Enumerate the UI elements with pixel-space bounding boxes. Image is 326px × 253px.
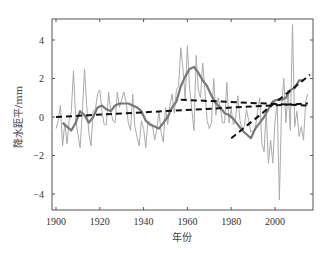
x-tick-label: 1940 [134,216,154,227]
x-tick-label: 1900 [46,216,66,227]
x-axis-title: 年份 [172,231,192,243]
x-tick-label: 2000 [265,216,285,227]
y-tick-label: −2 [33,150,44,161]
series-line-0 [56,25,308,200]
x-tick-label: 1960 [177,216,197,227]
y-tick-label: −4 [33,189,44,200]
y-tick-label: 2 [39,73,44,84]
plot-area [56,25,310,200]
y-axis-title: 降水距平/mm [12,85,24,148]
precipitation-anomaly-chart: 190019201940196019802000−4−2024 年份 降水距平/… [0,0,326,253]
y-tick-label: 0 [39,112,44,123]
x-tick-label: 1920 [90,216,110,227]
x-tick-label: 1980 [221,216,241,227]
y-tick-label: 4 [39,35,44,46]
